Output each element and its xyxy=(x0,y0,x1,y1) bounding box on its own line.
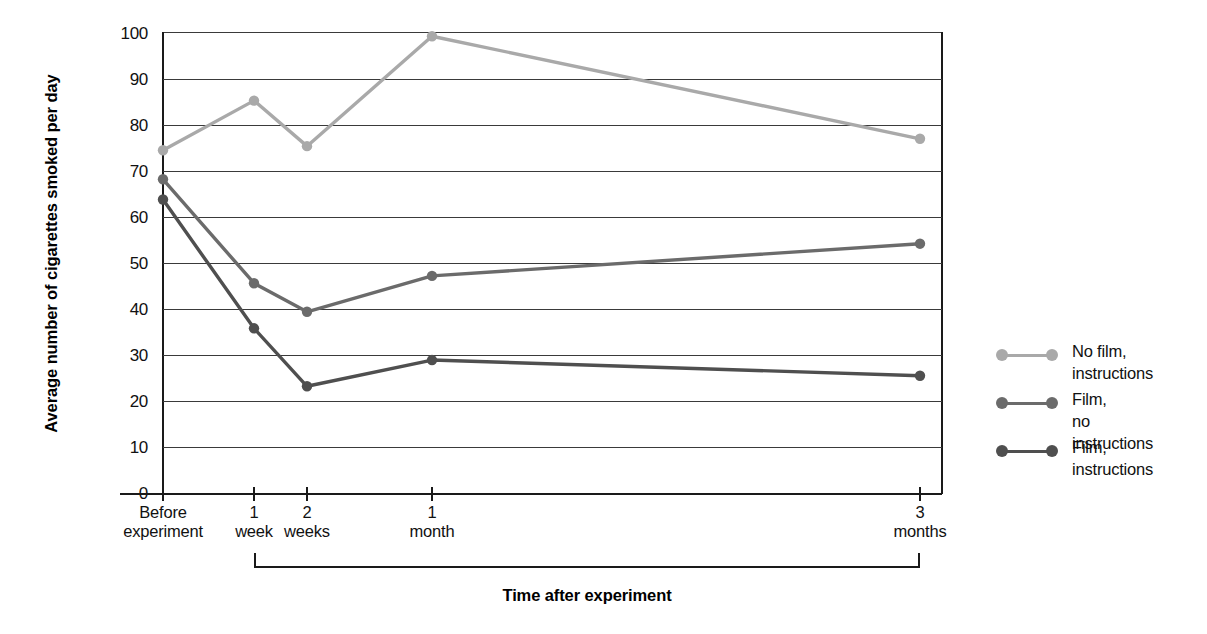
x-category-line1: Before xyxy=(139,503,186,521)
data-point xyxy=(427,31,437,41)
data-point xyxy=(158,174,168,184)
data-point xyxy=(915,134,925,144)
data-point xyxy=(302,381,312,391)
bracket-right-tick xyxy=(918,553,920,567)
y-tick-label-10: 10 xyxy=(104,439,148,456)
legend-label: Film, instructions xyxy=(1072,437,1153,481)
series-line-2 xyxy=(163,200,920,387)
legend-label: No film, instructions xyxy=(1072,341,1153,385)
x-axis-line xyxy=(120,493,942,495)
y-tick-label-80: 80 xyxy=(104,117,148,134)
data-point xyxy=(427,355,437,365)
x-tick-2 xyxy=(306,487,307,501)
chart-figure: Average number of cigarettes smoked per … xyxy=(0,0,1207,634)
bracket-bar xyxy=(254,566,920,568)
x-category-label-3: 1month xyxy=(362,503,502,542)
x-tick-0 xyxy=(162,487,163,501)
data-point xyxy=(302,307,312,317)
y-tick-label-20: 20 xyxy=(104,393,148,410)
data-point xyxy=(915,238,925,248)
series-lines xyxy=(163,33,942,493)
series-line-0 xyxy=(163,36,920,150)
data-point xyxy=(302,141,312,151)
x-category-line2: months xyxy=(894,522,947,540)
data-point xyxy=(249,323,259,333)
y-tick-label-30: 30 xyxy=(104,347,148,364)
legend-swatch-icon xyxy=(996,397,1058,409)
x-category-line2: month xyxy=(410,522,455,540)
data-point xyxy=(249,278,259,288)
legend-swatch-icon xyxy=(996,445,1058,457)
x-category-line1: 1 xyxy=(428,503,437,521)
y-tick-label-60: 60 xyxy=(104,209,148,226)
bracket-left-tick xyxy=(254,553,256,567)
x-category-line2: weeks xyxy=(284,522,330,540)
data-point xyxy=(158,145,168,155)
y-tick-label-90: 90 xyxy=(104,71,148,88)
x-tick-1 xyxy=(253,487,254,501)
x-tick-4 xyxy=(919,487,920,501)
x-category-label-4: 3months xyxy=(850,503,990,542)
x-category-line1: 2 xyxy=(303,503,312,521)
plot-area xyxy=(163,33,942,493)
x-tick-3 xyxy=(431,487,432,501)
x-category-line1: 3 xyxy=(916,503,925,521)
data-point xyxy=(249,95,259,105)
data-point xyxy=(158,194,168,204)
y-axis-title: Average number of cigarettes smoked per … xyxy=(41,74,62,434)
x-axis-title: Time after experiment xyxy=(254,586,920,605)
y-tick-label-70: 70 xyxy=(104,163,148,180)
legend-swatch-icon xyxy=(996,349,1058,361)
y-tick-label-50: 50 xyxy=(104,255,148,272)
data-point xyxy=(427,271,437,281)
x-category-label-2: 2weeks xyxy=(237,503,377,542)
series-line-1 xyxy=(163,179,920,311)
y-tick-label-40: 40 xyxy=(104,301,148,318)
data-point xyxy=(915,371,925,381)
y-tick-label-100: 100 xyxy=(104,25,148,42)
